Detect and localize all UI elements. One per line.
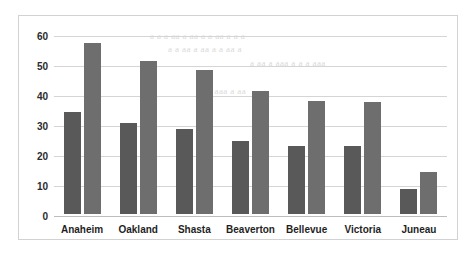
plot-area: 0102030405060 AnaheimOaklandShastaBeaver… bbox=[54, 16, 447, 239]
category-label-victoria: Victoria bbox=[335, 224, 391, 235]
bar bbox=[232, 141, 249, 214]
bar bbox=[308, 101, 325, 214]
y-tick-label-30: 30 bbox=[37, 121, 48, 132]
bar-group bbox=[279, 34, 335, 214]
bar-group bbox=[391, 34, 447, 214]
bar-group bbox=[110, 34, 166, 214]
category-label-shasta: Shasta bbox=[166, 224, 222, 235]
y-tick-label-10: 10 bbox=[37, 181, 48, 192]
y-tick-label-20: 20 bbox=[37, 151, 48, 162]
category-label-juneau: Juneau bbox=[391, 224, 447, 235]
bar bbox=[196, 70, 213, 214]
bar bbox=[64, 112, 81, 214]
bar bbox=[252, 91, 269, 214]
bar bbox=[344, 146, 361, 214]
y-tick-label-60: 60 bbox=[37, 31, 48, 42]
y-tick-label-0: 0 bbox=[42, 211, 48, 222]
category-label-oakland: Oakland bbox=[110, 224, 166, 235]
bar bbox=[84, 43, 101, 214]
category-label-beaverton: Beaverton bbox=[222, 224, 278, 235]
bar bbox=[400, 189, 417, 215]
bar-group bbox=[222, 34, 278, 214]
chart-frame: 0102030405060 AnaheimOaklandShastaBeaver… bbox=[18, 15, 458, 240]
bar-group bbox=[335, 34, 391, 214]
y-tick-label-50: 50 bbox=[37, 61, 48, 72]
bar-group bbox=[166, 34, 222, 214]
bar bbox=[140, 61, 157, 214]
bar bbox=[176, 129, 193, 215]
bar bbox=[120, 123, 137, 215]
y-tick-label-40: 40 bbox=[37, 91, 48, 102]
category-label-bellevue: Bellevue bbox=[279, 224, 335, 235]
bar-group bbox=[54, 34, 110, 214]
bar-series-container bbox=[54, 16, 447, 239]
bar bbox=[420, 172, 437, 214]
bar bbox=[364, 102, 381, 214]
bar bbox=[288, 146, 305, 214]
category-label-anaheim: Anaheim bbox=[54, 224, 110, 235]
